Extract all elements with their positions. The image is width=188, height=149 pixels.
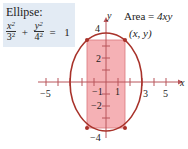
area-formula: Area = 4xy [124, 10, 172, 22]
x-tick-label: 3 [143, 88, 148, 99]
x-tick-label: −5 [40, 88, 51, 99]
corner-point [85, 126, 89, 130]
corner-point [85, 38, 89, 42]
y-tick-label: −1 [92, 86, 103, 97]
y-tick-label: −4 [90, 132, 101, 143]
x-axis-label: x [179, 77, 185, 88]
x-tick-label: 5 [163, 88, 168, 99]
y-tick-label: −2 [91, 100, 102, 111]
x-tick-label: 1 [115, 86, 120, 97]
y-tick-label: 4 [95, 23, 100, 34]
ellipse-plot: y x −5 −1 1 3 5 4 2 −2 −4 [0, 0, 188, 149]
point-label: (x, y) [129, 27, 152, 39]
y-tick-label: 2 [96, 53, 101, 64]
corner-point-xy [123, 38, 127, 42]
corner-point [123, 126, 127, 130]
y-axis-label: y [106, 10, 112, 21]
